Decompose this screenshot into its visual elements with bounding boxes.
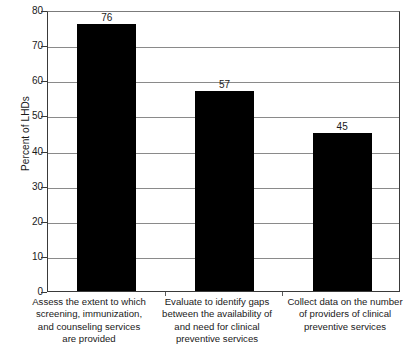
y-tick-mark [41, 292, 47, 293]
x-category-label-line: and counseling services [27, 321, 151, 333]
x-category-label-line: of providers of clinical [283, 308, 407, 320]
y-tick-mark [41, 81, 47, 82]
y-tick-mark [41, 187, 47, 188]
y-tick-mark [41, 152, 47, 153]
bar-chart-figure: Percent of LHDs 765745 01020304050607080… [0, 0, 409, 349]
x-axis-labels: Assess the extent to whichscreening, imm… [25, 296, 409, 346]
bar-value-label: 45 [312, 121, 372, 132]
x-category-label-line: Collect data on the number [283, 296, 407, 308]
x-category-label-line: Evaluate to identify gaps [155, 296, 279, 308]
x-category-label-line: and need for clinical [155, 321, 279, 333]
x-category-label: Assess the extent to whichscreening, imm… [25, 296, 153, 346]
x-category-label: Evaluate to identify gapsbetween the ava… [153, 296, 281, 346]
x-category-label-line: preventive services [283, 321, 407, 333]
y-tick-mark [41, 257, 47, 258]
x-category-label-line: preventive services [155, 333, 279, 345]
bar-value-label: 57 [195, 79, 255, 90]
y-tick-mark [41, 116, 47, 117]
bar [77, 24, 136, 291]
y-axis-title: Percent of LHDs [20, 54, 31, 214]
x-category-label-line: are provided [27, 333, 151, 345]
plot-area: 765745 [47, 11, 400, 292]
x-category-label: Collect data on the numberof providers o… [281, 296, 409, 333]
bar [195, 91, 254, 291]
y-tick-mark [41, 11, 47, 12]
y-tick-mark [41, 222, 47, 223]
bar-value-label: 76 [77, 12, 137, 23]
x-category-label-line: between the availability of [155, 308, 279, 320]
y-tick-mark [41, 46, 47, 47]
x-category-label-line: Assess the extent to which [27, 296, 151, 308]
x-category-label-line: screening, immunization, [27, 308, 151, 320]
bar [313, 133, 372, 291]
